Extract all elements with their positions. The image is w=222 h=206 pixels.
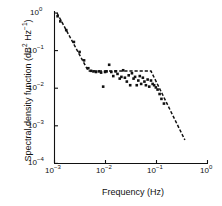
plot-canvas (0, 0, 222, 206)
spectral-density-chart: 100 10−1 10−2 10−3 10−4 10−3 10−2 10−1 1… (0, 0, 222, 206)
data-point-marker (134, 76, 137, 79)
data-point-marker (124, 76, 127, 79)
scatter-series (56, 15, 165, 105)
data-point-marker (127, 74, 130, 77)
data-point-marker (120, 76, 123, 79)
data-point-marker (131, 72, 134, 75)
data-point-marker (145, 84, 148, 87)
data-point-marker (156, 88, 159, 91)
axis-lines (54, 11, 208, 164)
data-point-marker (137, 79, 140, 82)
data-point-marker (142, 76, 145, 79)
data-point-marker (150, 79, 153, 82)
data-point-marker (163, 102, 166, 105)
y-axis-title: Spectral density function (dB2 Hz−1) (24, 16, 33, 166)
x-tick-label-1e-3: 10−3 (45, 167, 61, 175)
data-point-marker (148, 85, 151, 88)
data-point-marker (160, 98, 163, 101)
data-point-marker (158, 93, 161, 96)
data-point-marker (112, 75, 115, 78)
data-point-marker (116, 73, 119, 76)
data-point-marker (135, 84, 138, 87)
x-tick-label-1e-1: 10−1 (147, 167, 163, 175)
data-point-marker (102, 85, 105, 88)
data-point-marker (78, 51, 81, 54)
data-point-marker (108, 63, 111, 66)
data-point-marker (138, 75, 141, 78)
data-point-marker (129, 84, 132, 87)
x-axis-title: Frequency (Hz) (68, 188, 198, 197)
x-tick-label-1e0: 100 (200, 167, 212, 175)
data-point-marker (146, 78, 149, 81)
x-tick-label-1e-2: 10−2 (96, 167, 112, 175)
data-point-marker (143, 80, 146, 83)
data-point-marker (126, 80, 129, 83)
data-point-marker (140, 83, 143, 86)
data-series-layer (56, 13, 185, 140)
